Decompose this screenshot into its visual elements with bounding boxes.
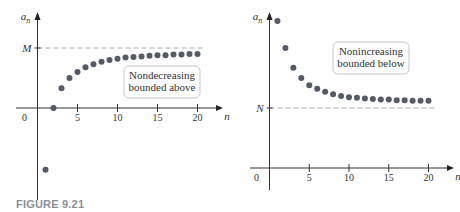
y-axis-label: an <box>253 10 263 25</box>
x-tick-label: 0 <box>22 112 27 123</box>
data-point <box>171 52 177 58</box>
data-point <box>282 45 288 51</box>
x-tick-label: 5 <box>307 172 312 183</box>
y-axis-arrow-icon <box>267 12 273 20</box>
data-point <box>131 54 137 60</box>
bound-label: N <box>255 102 264 114</box>
x-tick-label: 0 <box>254 172 259 183</box>
data-point <box>378 97 384 103</box>
bound-label: M <box>21 42 32 54</box>
data-point <box>99 59 105 65</box>
x-tick-label: 10 <box>113 112 123 123</box>
data-point <box>83 64 89 70</box>
x-tick-label: 5 <box>75 112 80 123</box>
data-point <box>330 91 336 97</box>
x-tick-label: 20 <box>424 172 434 183</box>
chart-panel-1: Mann05101520Nondecreasingbounded above <box>16 10 230 200</box>
y-axis-arrow-icon <box>35 12 41 20</box>
figure-caption: FIGURE 9.21 <box>16 198 84 210</box>
data-point <box>362 95 368 101</box>
x-axis-arrow-icon <box>216 105 223 111</box>
data-point <box>155 52 161 58</box>
x-tick-label: 10 <box>344 172 354 183</box>
y-axis-label: an <box>21 10 31 25</box>
data-point <box>314 86 320 92</box>
data-point <box>67 75 73 81</box>
annotation-text: bounded below <box>337 57 405 69</box>
data-point <box>338 93 344 99</box>
data-point <box>354 95 360 101</box>
annotation-text: bounded above <box>129 81 196 93</box>
data-point <box>115 56 121 62</box>
x-tick-label: 15 <box>153 112 163 123</box>
data-point <box>179 52 185 58</box>
data-point <box>107 57 113 63</box>
annotation-text: Nondecreasing <box>129 69 195 81</box>
data-point <box>402 97 408 103</box>
x-axis-arrow-icon <box>447 165 454 171</box>
data-point <box>306 82 312 88</box>
data-point <box>394 97 400 103</box>
data-point <box>386 97 392 103</box>
data-point <box>418 98 424 104</box>
data-point <box>187 51 193 57</box>
data-point <box>298 75 304 81</box>
data-point <box>147 53 153 59</box>
data-point <box>322 89 328 95</box>
data-point <box>370 96 376 102</box>
data-point <box>75 69 81 75</box>
data-point <box>59 85 65 91</box>
x-tick-label: 15 <box>384 172 394 183</box>
chart-panel-2: Nann05101520Nonincreasingbounded below <box>250 10 460 190</box>
data-point <box>346 94 352 100</box>
data-point <box>195 51 201 57</box>
annotation-text: Nonincreasing <box>339 45 404 57</box>
x-axis-label: n <box>224 110 230 122</box>
data-point <box>274 18 280 24</box>
data-point <box>91 61 97 67</box>
x-tick-label: 20 <box>193 112 203 123</box>
data-point <box>426 98 432 104</box>
data-point <box>410 98 416 104</box>
data-point <box>43 167 49 173</box>
data-point <box>51 105 57 111</box>
data-point <box>163 52 169 58</box>
x-axis-label: n <box>455 170 460 182</box>
data-point <box>139 53 145 59</box>
data-point <box>290 65 296 71</box>
figure-canvas: Mann05101520Nondecreasingbounded aboveNa… <box>0 0 460 212</box>
data-point <box>123 55 129 61</box>
